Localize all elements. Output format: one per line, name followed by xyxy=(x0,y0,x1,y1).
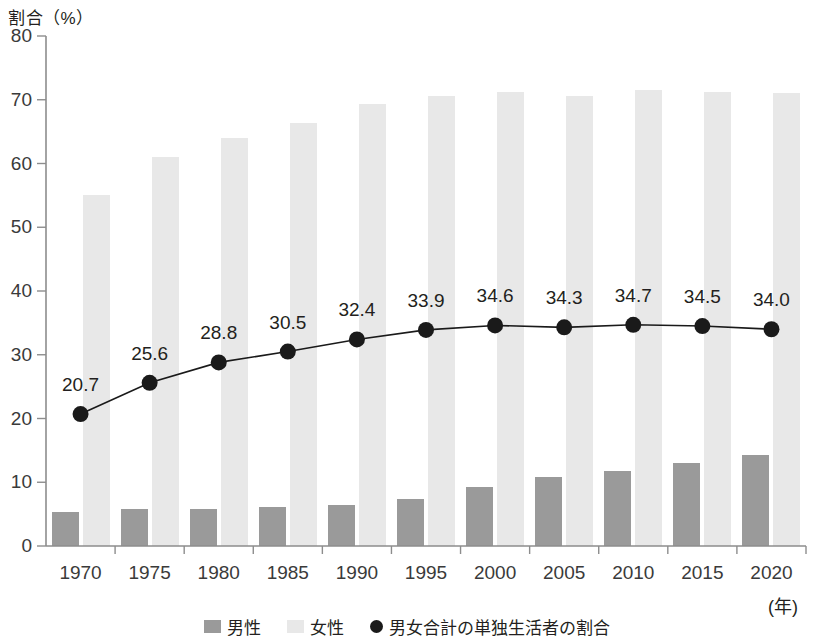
data-point-marker xyxy=(694,318,710,334)
data-point-label: 20.7 xyxy=(62,374,99,396)
data-point-label: 34.6 xyxy=(477,285,514,307)
legend-label: 男性 xyxy=(227,614,261,639)
data-point-marker xyxy=(211,354,227,370)
data-point-label: 30.5 xyxy=(269,312,306,334)
data-point-marker xyxy=(142,375,158,391)
data-point-label: 34.5 xyxy=(684,286,721,308)
data-point-marker xyxy=(556,319,572,335)
legend-item[interactable]: 男女合計の単独生活者の割合 xyxy=(370,614,610,639)
legend-item[interactable]: 女性 xyxy=(287,614,344,639)
data-point-label: 32.4 xyxy=(338,299,375,321)
data-point-marker xyxy=(73,406,89,422)
data-point-marker xyxy=(763,321,779,337)
legend-square-marker-icon xyxy=(287,620,304,633)
data-point-marker xyxy=(625,317,641,333)
data-point-marker xyxy=(349,331,365,347)
data-point-label: 34.7 xyxy=(615,285,652,307)
data-point-label: 28.8 xyxy=(200,322,237,344)
data-point-marker xyxy=(418,322,434,338)
data-point-label: 33.9 xyxy=(408,290,445,312)
legend-label: 女性 xyxy=(310,614,344,639)
data-point-label: 25.6 xyxy=(131,343,168,365)
legend-label: 男女合計の単独生活者の割合 xyxy=(389,614,610,639)
legend-circle-marker-icon xyxy=(370,620,383,633)
data-point-label: 34.3 xyxy=(546,287,583,309)
data-point-marker xyxy=(487,317,503,333)
legend-item[interactable]: 男性 xyxy=(204,614,261,639)
data-point-label: 34.0 xyxy=(753,289,790,311)
legend-square-marker-icon xyxy=(204,620,221,633)
trend-line xyxy=(81,325,772,414)
data-point-marker xyxy=(280,344,296,360)
chart-legend: 男性女性男女合計の単独生活者の割合 xyxy=(0,614,814,638)
